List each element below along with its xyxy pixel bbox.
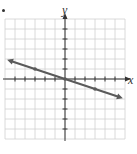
y-axis-label: y: [62, 4, 67, 16]
coordinate-plane: [0, 0, 137, 154]
axes: [3, 13, 131, 141]
x-axis-label: x: [128, 74, 133, 86]
